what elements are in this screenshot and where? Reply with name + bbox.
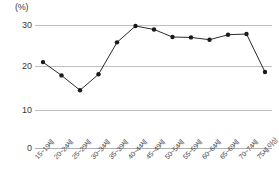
data-point — [189, 35, 193, 39]
series-polyline — [43, 26, 265, 90]
data-point — [226, 33, 230, 37]
data-point — [96, 72, 100, 76]
data-series-line — [0, 0, 279, 194]
data-point — [59, 73, 63, 77]
data-point — [170, 35, 174, 39]
data-point — [207, 38, 211, 42]
data-point — [115, 40, 119, 44]
data-point — [244, 32, 248, 36]
chart-container: (%) 30 20 10 0 15~19세20~24세25~29세30~34세3… — [0, 0, 279, 194]
data-point — [41, 60, 45, 64]
data-point — [152, 27, 156, 31]
data-point — [263, 70, 267, 74]
data-point — [133, 24, 137, 28]
data-point — [78, 88, 82, 92]
